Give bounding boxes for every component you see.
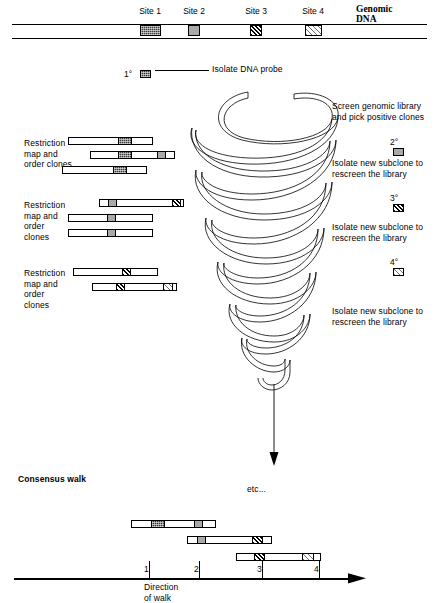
axis-arrow-icon	[348, 570, 370, 588]
step-3-marker: 4°	[390, 246, 404, 278]
step-2-text: Isolate new subclone to rescreen the lib…	[332, 158, 436, 179]
step-1-marker-swatch	[393, 148, 404, 156]
probe-marker-swatch	[140, 70, 151, 78]
probe-marker-label: 1°	[124, 69, 132, 79]
consensus-clone-block	[197, 537, 206, 543]
clone-block	[163, 284, 173, 290]
step-3-marker-label: 4°	[390, 257, 398, 267]
consensus-clone-bar	[187, 536, 272, 544]
consensus-clone-block	[151, 521, 165, 527]
etc-label: etc...	[247, 484, 266, 495]
site-marker-1	[140, 25, 161, 36]
step-1-marker: 2°	[390, 126, 404, 158]
step-2-marker: 3°	[390, 182, 404, 214]
consensus-clone-block	[194, 521, 203, 527]
clone-block	[107, 215, 116, 221]
clone-bar	[68, 137, 153, 145]
clone-bar	[62, 166, 147, 174]
walking-spiral	[186, 84, 346, 474]
site-marker-3	[250, 25, 262, 36]
axis-baseline	[14, 578, 354, 580]
site-label-1: Site 1	[126, 6, 174, 16]
site-label-2: Site 2	[170, 6, 218, 16]
clone-bar	[68, 229, 153, 237]
site-marker-4	[305, 25, 322, 36]
step-3-text: Isolate new subclone to rescreen the lib…	[332, 222, 436, 243]
site-label-4: Site 4	[289, 6, 337, 16]
clone-block	[172, 200, 181, 206]
step-1-marker-label: 2°	[390, 137, 398, 147]
genomic-dna-title: Genomic DNA	[356, 4, 392, 24]
probe-row: 1°	[124, 63, 151, 81]
clone-bar	[68, 214, 153, 222]
step-2-marker-label: 3°	[390, 193, 398, 203]
clone-bar	[92, 283, 177, 291]
step-2-marker-swatch	[393, 204, 404, 212]
consensus-clone-block	[254, 554, 265, 560]
consensus-clone-bar	[236, 553, 321, 561]
clone-block	[122, 269, 131, 275]
clone-bar	[90, 151, 175, 159]
consensus-clone-block	[302, 554, 314, 560]
clone-block	[113, 167, 127, 173]
site-marker-2	[188, 25, 200, 36]
clone-block	[108, 200, 117, 206]
clone-block	[116, 284, 125, 290]
axis-tick-mark	[262, 561, 263, 579]
axis-tick-mark	[319, 561, 320, 579]
clone-bar	[73, 268, 158, 276]
clone-bar	[99, 199, 184, 207]
step-4-text: Isolate new subclone to rescreen the lib…	[332, 306, 436, 327]
probe-text: Isolate DNA probe	[212, 64, 283, 75]
direction-of-walk-label: Direction of walk	[144, 582, 178, 603]
step-3-marker-swatch	[393, 268, 404, 276]
axis-tick-mark	[149, 561, 150, 579]
clone-block	[118, 152, 132, 158]
step-1-text: Screen genomic library and pick positive…	[332, 101, 436, 122]
axis-tick-mark	[199, 561, 200, 579]
clone-block	[157, 152, 166, 158]
consensus-clone-bar	[131, 520, 216, 528]
consensus-walk-label: Consensus walk	[18, 474, 86, 485]
clone-block	[118, 138, 132, 144]
probe-leader-line	[155, 70, 209, 71]
consensus-clone-block	[252, 537, 263, 543]
clone-block	[107, 230, 116, 236]
site-label-3: Site 3	[232, 6, 280, 16]
genomic-dna-bar	[12, 24, 427, 39]
